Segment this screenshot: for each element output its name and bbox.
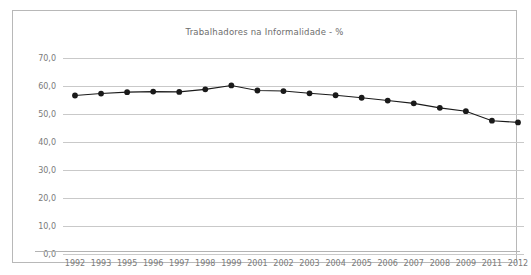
x-axis-tick-label: 2003 <box>299 259 319 268</box>
data-point <box>98 91 104 97</box>
data-point <box>489 118 495 124</box>
data-point <box>124 89 130 95</box>
x-axis-tick-label: 2006 <box>378 259 398 268</box>
x-axis-tick-label: 1997 <box>169 259 189 268</box>
x-axis-tick-label: 2002 <box>273 259 293 268</box>
data-point <box>255 88 261 94</box>
data-point <box>176 89 182 95</box>
data-point <box>411 100 417 106</box>
data-point <box>385 98 391 104</box>
y-axis-tick-label: 40,0 <box>38 138 56 147</box>
x-axis-tick-label: 1993 <box>91 259 111 268</box>
x-axis-tick-label: 2012 <box>508 259 528 268</box>
data-point <box>359 95 365 101</box>
line-series <box>63 58 524 254</box>
y-axis-tick-label: 20,0 <box>38 194 56 203</box>
data-point <box>281 88 287 94</box>
data-point <box>515 120 521 126</box>
x-axis-tick-label: 1992 <box>65 259 85 268</box>
data-point <box>150 89 156 95</box>
y-axis-tick-label: 30,0 <box>38 166 56 175</box>
x-axis-tick-label: 2011 <box>482 259 502 268</box>
x-axis-tick-label: 1998 <box>195 259 215 268</box>
x-axis-tick-label: 2009 <box>456 259 476 268</box>
x-axis-tick-label: 2008 <box>430 259 450 268</box>
series-line <box>75 85 518 122</box>
x-axis-tick-label: 2004 <box>325 259 345 268</box>
y-axis-tick-label: 50,0 <box>38 110 56 119</box>
data-point <box>437 105 443 111</box>
data-point <box>202 86 208 92</box>
y-axis-tick-label: 10,0 <box>38 222 56 231</box>
data-point <box>72 93 78 99</box>
gridline <box>63 254 524 255</box>
axis-baseline <box>35 251 520 252</box>
x-axis-tick-label: 1995 <box>117 259 137 268</box>
plot-area: 70,060,050,040,030,020,010,00,0 19921993… <box>63 58 524 254</box>
chart-frame: Trabalhadores na Informalidade - % 70,06… <box>12 10 517 263</box>
data-point <box>307 90 313 96</box>
data-point <box>463 108 469 114</box>
chart-title: Trabalhadores na Informalidade - % <box>13 27 516 37</box>
x-axis-tick-label: 1999 <box>221 259 241 268</box>
y-axis-tick-label: 60,0 <box>38 82 56 91</box>
x-axis-tick-label: 2005 <box>351 259 371 268</box>
data-point <box>228 83 234 89</box>
y-axis-tick-label: 70,0 <box>38 54 56 63</box>
x-axis-tick-label: 1996 <box>143 259 163 268</box>
x-axis-tick-label: 2001 <box>247 259 267 268</box>
data-point <box>333 92 339 98</box>
x-axis-tick-label: 2007 <box>404 259 424 268</box>
